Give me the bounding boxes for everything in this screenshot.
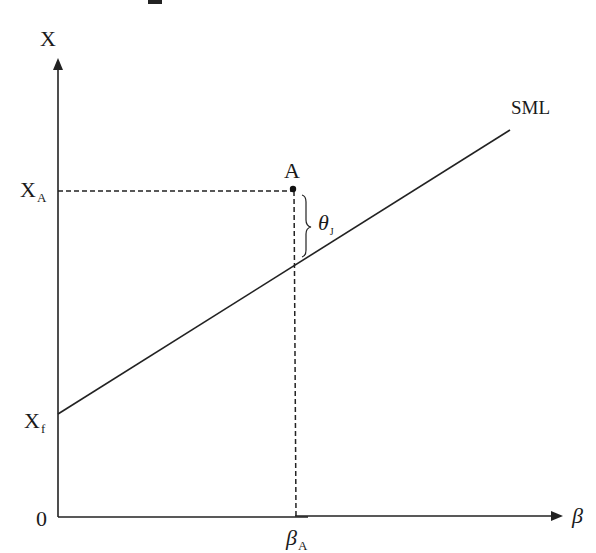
beta-a-guide-dashed — [294, 191, 296, 516]
xa-tick-label: XA — [20, 179, 46, 204]
origin-label: 0 — [36, 508, 47, 530]
theta-sub: J — [330, 226, 334, 237]
x-axis-arrow-icon — [551, 511, 563, 521]
point-a-label: A — [284, 160, 300, 182]
x-axis-label: β — [572, 505, 583, 527]
point-a-marker — [290, 186, 296, 192]
beta-a-tick-label: βA — [286, 527, 307, 552]
xf-tick-label: Xf — [24, 410, 45, 435]
y-axis-arrow-icon — [53, 58, 63, 70]
xa-sub: A — [37, 190, 46, 205]
theta-base: θ — [318, 210, 329, 235]
xf-sub: f — [41, 421, 45, 436]
theta-label: θJ — [318, 212, 334, 237]
y-axis-label: X — [40, 28, 56, 50]
xf-base: X — [24, 408, 40, 433]
sml-label: SML — [511, 98, 550, 117]
beta-a-sub: A — [298, 538, 307, 553]
xa-base: X — [20, 177, 36, 202]
beta-a-base: β — [286, 525, 297, 550]
theta-brace-icon — [302, 195, 311, 257]
title-fragment-mark — [148, 0, 162, 4]
